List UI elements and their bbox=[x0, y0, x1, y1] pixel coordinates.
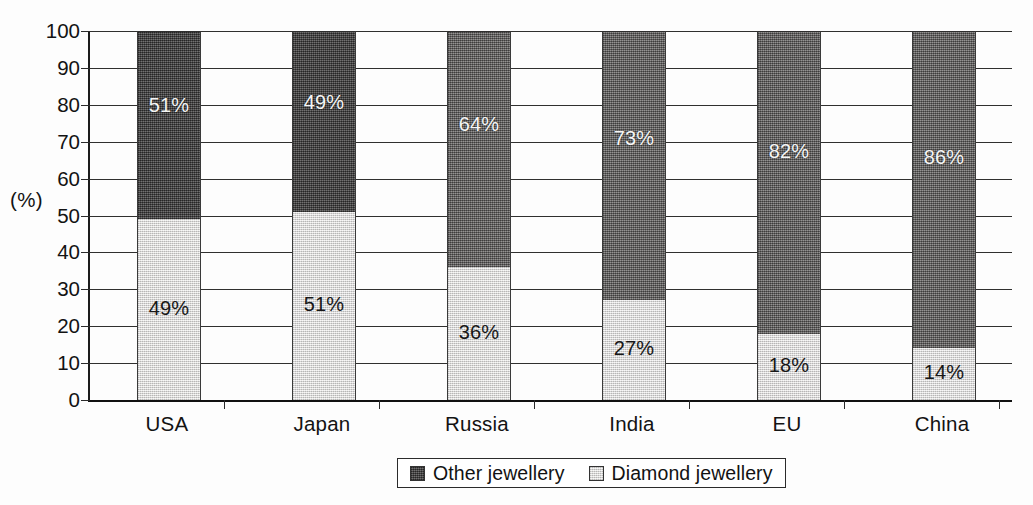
data-label: 14% bbox=[913, 361, 975, 384]
bar-usa: 49%51% bbox=[137, 31, 201, 400]
gridline bbox=[90, 179, 1012, 180]
y-axis-tick-label: 10 bbox=[18, 351, 80, 375]
bar-china: 14%86% bbox=[912, 31, 976, 400]
bar-segment-other-jewellery: 49% bbox=[292, 31, 356, 212]
data-label: 86% bbox=[913, 146, 975, 169]
legend-swatch-dark bbox=[410, 466, 425, 481]
bar-segment-diamond-jewellery: 27% bbox=[602, 300, 666, 400]
data-label: 18% bbox=[758, 354, 820, 377]
y-axis-tick bbox=[81, 289, 90, 290]
bar-segment-other-jewellery: 73% bbox=[602, 31, 666, 300]
y-axis-tick bbox=[81, 105, 90, 106]
data-label: 49% bbox=[293, 91, 355, 114]
data-label: 51% bbox=[138, 94, 200, 117]
y-axis-tick bbox=[81, 326, 90, 327]
y-axis-tick-label: 40 bbox=[18, 240, 80, 264]
y-axis-tick-label: 80 bbox=[18, 93, 80, 117]
x-axis-tick bbox=[999, 400, 1000, 409]
y-axis-tick bbox=[81, 252, 90, 253]
x-axis-tick bbox=[689, 400, 690, 409]
y-axis-tick-label: 60 bbox=[18, 167, 80, 191]
data-label: 27% bbox=[603, 337, 665, 360]
data-label: 36% bbox=[448, 321, 510, 344]
x-axis-label-russia: Russia bbox=[402, 412, 552, 436]
y-axis-tick bbox=[81, 142, 90, 143]
gridline bbox=[90, 289, 1012, 290]
y-axis-tick-label: 20 bbox=[18, 314, 80, 338]
y-axis-tick bbox=[81, 216, 90, 217]
y-axis-tick bbox=[81, 400, 90, 401]
x-axis-label-eu: EU bbox=[712, 412, 862, 436]
bar-segment-diamond-jewellery: 14% bbox=[912, 348, 976, 400]
x-axis-tick bbox=[379, 400, 380, 409]
gridline bbox=[90, 252, 1012, 253]
legend-item-1[interactable]: Other jewellery bbox=[410, 462, 565, 485]
y-axis-tick-label: 30 bbox=[18, 277, 80, 301]
plot-area: 49%51%51%49%36%64%27%73%18%82%14%86% bbox=[88, 31, 1012, 400]
x-axis-tick bbox=[844, 400, 845, 409]
y-axis-tick bbox=[81, 68, 90, 69]
data-label: 64% bbox=[448, 113, 510, 136]
gridline bbox=[90, 105, 1012, 106]
gridline bbox=[90, 68, 1012, 69]
data-label: 51% bbox=[293, 293, 355, 316]
bar-segment-other-jewellery: 64% bbox=[447, 31, 511, 267]
bar-segment-diamond-jewellery: 51% bbox=[292, 212, 356, 400]
x-axis-label-india: India bbox=[557, 412, 707, 436]
gridline bbox=[90, 31, 1012, 32]
bar-russia: 36%64% bbox=[447, 31, 511, 400]
legend-label: Other jewellery bbox=[433, 462, 565, 485]
bar-segment-diamond-jewellery: 18% bbox=[757, 334, 821, 400]
y-axis-tick-label: 70 bbox=[18, 130, 80, 154]
x-axis-tick bbox=[534, 400, 535, 409]
bar-eu: 18%82% bbox=[757, 31, 821, 400]
data-label: 73% bbox=[603, 127, 665, 150]
legend-item-2[interactable]: Diamond jewellery bbox=[589, 462, 773, 485]
data-label: 82% bbox=[758, 140, 820, 163]
y-axis-tick bbox=[81, 31, 90, 32]
bar-india: 27%73% bbox=[602, 31, 666, 400]
gridline bbox=[90, 216, 1012, 217]
gridline bbox=[90, 363, 1012, 364]
legend-swatch-light bbox=[589, 466, 604, 481]
bar-segment-other-jewellery: 82% bbox=[757, 31, 821, 334]
gridline bbox=[90, 326, 1012, 327]
chart-legend: Other jewelleryDiamond jewellery bbox=[397, 458, 786, 488]
axis-baseline bbox=[88, 400, 1012, 402]
x-axis-label-usa: USA bbox=[92, 412, 242, 436]
bar-segment-diamond-jewellery: 36% bbox=[447, 267, 511, 400]
x-axis-label-japan: Japan bbox=[247, 412, 397, 436]
gridline bbox=[90, 142, 1012, 143]
bar-segment-other-jewellery: 51% bbox=[137, 31, 201, 219]
legend-label: Diamond jewellery bbox=[612, 462, 773, 485]
bar-segment-diamond-jewellery: 49% bbox=[137, 219, 201, 400]
y-axis-tick-label: 90 bbox=[18, 56, 80, 80]
data-label: 49% bbox=[138, 297, 200, 320]
y-axis-tick bbox=[81, 363, 90, 364]
bar-japan: 51%49% bbox=[292, 31, 356, 400]
x-axis-tick bbox=[224, 400, 225, 409]
x-axis-label-china: China bbox=[867, 412, 1017, 436]
y-axis-tick bbox=[81, 179, 90, 180]
bar-segment-other-jewellery: 86% bbox=[912, 31, 976, 348]
y-axis-tick-label: 100 bbox=[18, 19, 80, 43]
y-axis-tick-label: 0 bbox=[18, 388, 80, 412]
y-axis-tick-label: 50 bbox=[18, 204, 80, 228]
chart-page: (%) 0102030405060708090100 49%51%51%49%3… bbox=[0, 0, 1033, 505]
